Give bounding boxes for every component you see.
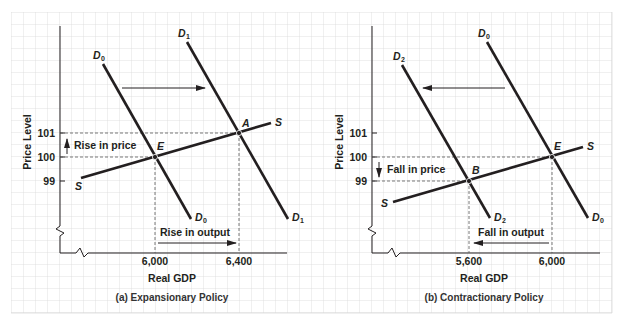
svg-text:D: D <box>93 49 101 61</box>
x-axis-title: Real GDP <box>148 272 196 284</box>
svg-text:D: D <box>292 211 300 223</box>
svg-text:D: D <box>592 211 600 223</box>
equilibrium-point-e <box>549 154 554 159</box>
svg-text:D: D <box>178 27 186 39</box>
svg-text:D: D <box>478 27 486 39</box>
x-tick-5600: 5,600 <box>456 255 482 267</box>
y-axis-title: Price Level <box>333 114 345 170</box>
svg-text:0: 0 <box>600 217 604 224</box>
x-tick-6000: 6,000 <box>142 255 168 267</box>
output-annotation: Fall in output <box>478 226 544 238</box>
y-tick-101: 101 <box>37 127 55 139</box>
x-tick-6000: 6,000 <box>539 255 565 267</box>
curve-label-s-top: S <box>275 116 282 128</box>
svg-text:0: 0 <box>203 217 207 224</box>
svg-text:D: D <box>393 50 401 62</box>
equilibrium-point-e <box>152 154 157 159</box>
svg-text:2: 2 <box>502 217 506 224</box>
x-axis-title: Real GDP <box>460 272 508 284</box>
svg-text:0: 0 <box>101 55 105 62</box>
diagram-stage: Price Level 101 100 99 E A D 0 D 1 <box>0 0 624 323</box>
point-label-e: E <box>157 140 165 152</box>
svg-text:0: 0 <box>486 33 490 40</box>
price-annotation: Fall in price <box>387 163 446 175</box>
price-annotation: Rise in price <box>74 139 137 151</box>
y-tick-99: 99 <box>43 175 55 187</box>
y-tick-101: 101 <box>349 127 367 139</box>
y-axis-title: Price Level <box>21 114 33 170</box>
curve-label-s-bottom: S <box>381 197 388 209</box>
y-tick-100: 100 <box>37 151 55 163</box>
y-tick-99: 99 <box>355 175 367 187</box>
panel-caption: (a) Expansionary Policy <box>116 292 229 303</box>
curve-label-s-top: S <box>587 140 594 152</box>
svg-text:1: 1 <box>300 217 304 224</box>
x-tick-6400: 6,400 <box>226 255 252 267</box>
point-label-b: B <box>472 164 480 176</box>
svg-text:D: D <box>195 211 203 223</box>
panel-caption: (b) Contractionary Policy <box>425 292 544 303</box>
output-annotation: Rise in output <box>160 226 230 238</box>
svg-text:D: D <box>494 211 502 223</box>
y-tick-100: 100 <box>349 151 367 163</box>
svg-text:1: 1 <box>186 33 190 40</box>
point-label-a: A <box>241 117 250 129</box>
curve-label-s-bottom: S <box>75 180 82 192</box>
equilibrium-point-b <box>466 178 471 183</box>
point-label-e: E <box>554 140 562 152</box>
equilibrium-point-a <box>236 130 241 135</box>
svg-text:2: 2 <box>401 56 405 63</box>
